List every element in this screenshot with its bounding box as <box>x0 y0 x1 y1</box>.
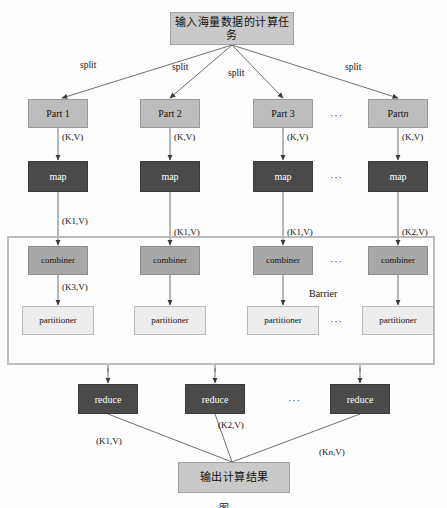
combiner-ellipsis: ··· <box>330 256 343 267</box>
part-node-3[interactable]: Part 3 <box>253 99 313 128</box>
reduce-ellipsis: ··· <box>288 395 301 406</box>
map-ellipsis: ··· <box>330 172 343 183</box>
map-out-col4-k1: (K2,V) <box>402 227 428 238</box>
map-out-col1-k3: (K3,V) <box>62 282 88 293</box>
combiner-node-3[interactable]: combiner <box>253 246 313 275</box>
map-node-n[interactable]: map <box>368 161 428 192</box>
kv-label-col2: (K,V) <box>174 132 195 143</box>
partitioner-ellipsis: ··· <box>330 316 343 327</box>
parts-ellipsis: ··· <box>330 110 343 121</box>
reduce-out-label-n: (Kn,V) <box>310 436 345 469</box>
split-label-3: split <box>228 68 244 79</box>
kv-label-col1: (K,V) <box>62 132 83 143</box>
partitioner-node-1[interactable]: partitioner <box>22 306 94 335</box>
split-label-2: split <box>172 62 188 73</box>
map-node-3[interactable]: map <box>253 161 313 192</box>
map-out-col2-k1: (K1,V) <box>174 227 200 238</box>
partitioner-node-2[interactable]: partitioner <box>134 306 206 335</box>
map-out-col1-k1: (K1,V) <box>62 216 88 227</box>
part-node-n[interactable]: Part n <box>368 99 428 128</box>
map-out-col3-k1: (K1,V) <box>287 227 313 238</box>
combiner-node-2[interactable]: combiner <box>140 246 200 275</box>
diagram-canvas: 输入海量数据的计算任务 split split split split Part… <box>0 0 447 508</box>
part-node-n-prefix: Part <box>387 108 403 119</box>
reduce-node-2[interactable]: reduce <box>185 384 245 414</box>
reduce-out-n-prefix: (K <box>319 447 329 457</box>
input-task-node[interactable]: 输入海量数据的计算任务 <box>170 12 294 45</box>
reduce-out-label-2: (K2,V) <box>218 420 244 431</box>
partitioner-node-3[interactable]: partitioner <box>247 306 319 335</box>
kv-label-col3: (K,V) <box>287 132 308 143</box>
kv-label-col4: (K,V) <box>402 132 423 143</box>
map-node-2[interactable]: map <box>140 161 200 192</box>
output-result-node[interactable]: 输出计算结果 <box>178 462 290 493</box>
reduce-out-label-1: (K1,V) <box>96 436 122 447</box>
reduce-out-n-suffix: ,V) <box>333 447 345 457</box>
barrier-label: Barrier <box>309 288 337 299</box>
split-label-1: split <box>80 60 96 71</box>
combiner-node-n[interactable]: combiner <box>368 246 428 275</box>
split-label-4: split <box>345 62 361 73</box>
part-node-n-index: n <box>404 108 409 119</box>
combiner-node-1[interactable]: combiner <box>28 246 88 275</box>
part-node-1[interactable]: Part 1 <box>28 99 88 128</box>
partitioner-node-n[interactable]: partitioner <box>362 306 434 335</box>
map-node-1[interactable]: map <box>28 161 88 192</box>
reduce-node-n[interactable]: reduce <box>330 384 390 414</box>
part-node-2[interactable]: Part 2 <box>140 99 200 128</box>
figure-caption: 图 <box>0 500 447 508</box>
reduce-node-1[interactable]: reduce <box>78 384 138 414</box>
